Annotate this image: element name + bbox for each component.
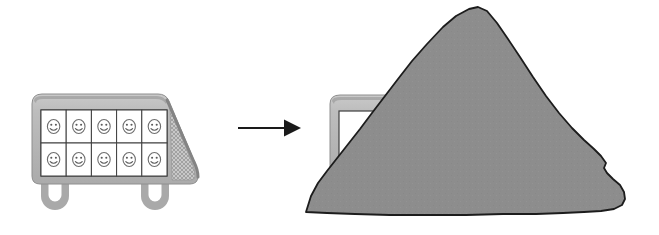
smiley-face-icon <box>148 153 160 167</box>
cargo-row-2 <box>41 143 167 176</box>
smiley-face-icon <box>47 120 59 134</box>
scene-canvas <box>0 0 659 235</box>
arrow-right-icon <box>238 120 301 137</box>
cargo-row-1 <box>41 110 167 143</box>
loaded-truck <box>32 94 198 210</box>
smiley-face-icon <box>148 120 160 134</box>
covered-truck <box>306 7 625 215</box>
smiley-face-icon <box>73 120 85 134</box>
smiley-face-icon <box>123 120 135 134</box>
smiley-face-icon <box>123 153 135 167</box>
illustration-scene: Loaded truck transforms into covered pil… <box>0 0 659 235</box>
smiley-face-icon <box>98 153 110 167</box>
smiley-face-icon <box>73 153 85 167</box>
smiley-face-icon <box>47 153 59 167</box>
cargo-grid <box>41 110 167 176</box>
smiley-face-icon <box>98 120 110 134</box>
